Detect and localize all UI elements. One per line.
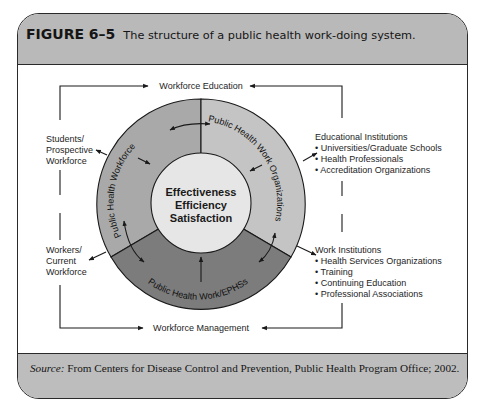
- educational-institutions-title: Educational Institutions: [315, 132, 408, 142]
- workforce-management-label: Workforce Management: [153, 323, 249, 333]
- svg-text:Workforce: Workforce: [46, 267, 87, 277]
- svg-text:Workers/: Workers/: [46, 245, 82, 255]
- workforce-education-label: Workforce Education: [159, 81, 242, 91]
- svg-text:Workforce: Workforce: [46, 156, 87, 166]
- svg-text:Current: Current: [46, 256, 77, 266]
- work-institutions-title: Work Institutions: [315, 245, 382, 255]
- svg-text:• Professional Associations: • Professional Associations: [315, 289, 423, 299]
- svg-text:Prospective: Prospective: [46, 145, 93, 155]
- svg-text:Students/: Students/: [46, 134, 85, 144]
- svg-text:• Health Services Organization: • Health Services Organizations: [315, 256, 442, 266]
- students-label: Students/ Prospective Workforce: [46, 134, 93, 166]
- svg-text:• Training: • Training: [315, 267, 353, 277]
- workers-label: Workers/ Current Workforce: [46, 245, 87, 277]
- svg-text:• Universities/Graduate School: • Universities/Graduate Schools: [315, 143, 442, 153]
- work-institutions: Work Institutions • Health Services Orga…: [315, 245, 442, 299]
- svg-text:• Accreditation Organizations: • Accreditation Organizations: [315, 165, 431, 175]
- svg-text:• Continuing Education: • Continuing Education: [315, 278, 406, 288]
- core-effectiveness: Effectiveness: [166, 186, 237, 198]
- svg-text:• Health Professionals: • Health Professionals: [315, 154, 404, 164]
- core-efficiency: Efficiency: [175, 199, 228, 211]
- core-satisfaction: Satisfaction: [170, 212, 233, 224]
- educational-institutions: Educational Institutions • Universities/…: [315, 132, 442, 175]
- workforce-system-diagram: Public Health Workforce Public Health Wo…: [0, 0, 486, 407]
